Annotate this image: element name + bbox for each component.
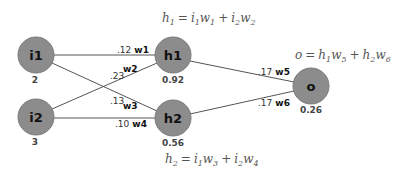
node-h1-label: h1 (164, 48, 182, 63)
node-i2-value: 3 (32, 137, 38, 147)
node-i2: i2 3 (18, 99, 54, 147)
weight-w3-name: w3 (123, 101, 138, 111)
equation-h2: h2=i1w3+i2w4 (165, 152, 259, 168)
node-i2-label: i2 (29, 110, 43, 125)
equation-o: o=h1w5+h2w6 (295, 48, 391, 64)
node-h1: h1 0.92 (155, 37, 191, 85)
node-h2: h2 0.56 (155, 100, 191, 148)
weight-w6: .17w6 (258, 98, 290, 108)
node-i1-label: i1 (29, 48, 43, 63)
weight-w4: .10w4 (115, 119, 147, 129)
node-i1-value: 2 (32, 75, 38, 85)
node-o-label: o (307, 79, 316, 94)
node-i1: i1 2 (18, 37, 54, 85)
network-canvas: .12w1 .23 w2 .13 w3 .10w4 .17w5 .17w6 i1… (0, 0, 398, 178)
weight-w1: .12w1 (117, 45, 149, 55)
weight-w5: .17w5 (258, 67, 290, 77)
equation-h1: h1=i1w1+i2w2 (162, 11, 256, 27)
node-o: o 0.26 (293, 68, 329, 115)
weight-w2-name: w2 (123, 64, 138, 74)
node-h2-value: 0.56 (162, 138, 184, 148)
neural-network-diagram: .12w1 .23 w2 .13 w3 .10w4 .17w5 .17w6 i1… (0, 0, 398, 178)
node-o-value: 0.26 (300, 105, 322, 115)
node-h1-value: 0.92 (162, 75, 184, 85)
node-h2-label: h2 (164, 111, 182, 126)
